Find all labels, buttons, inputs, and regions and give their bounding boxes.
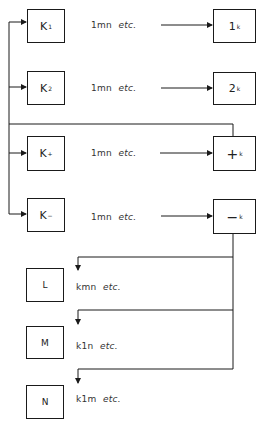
label-etc: etc. <box>118 212 136 222</box>
node-k1-main: K <box>40 20 47 33</box>
node-kminus-sub: − <box>48 212 53 219</box>
label-text: 1mn <box>91 212 112 222</box>
label-text: kmn <box>76 282 97 292</box>
node-minusk-sub: k <box>239 213 242 220</box>
node-1k: 1k <box>213 9 256 43</box>
label-etc: etc. <box>103 282 121 292</box>
node-minusk: −k <box>213 199 256 234</box>
node-k2-main: K <box>40 82 47 95</box>
node-n: N <box>26 385 64 419</box>
node-k2: K2 <box>27 71 65 105</box>
node-kplus-sub: + <box>48 150 53 157</box>
label-etc: etc. <box>118 83 136 93</box>
node-1k-sub: k <box>237 23 240 30</box>
node-l-main: L <box>42 280 47 290</box>
node-m-main: M <box>41 338 49 348</box>
node-kplus: K+ <box>27 136 65 171</box>
label-etc: etc. <box>118 148 136 158</box>
node-k1-sub: 1 <box>48 23 52 30</box>
node-m: M <box>26 326 64 359</box>
node-k1-label: 1mn etc. <box>91 20 137 30</box>
node-minusk-main: − <box>226 209 238 225</box>
node-2k-sub: k <box>237 85 240 92</box>
label-etc: etc. <box>118 20 136 30</box>
node-k2-label: 1mn etc. <box>91 83 137 93</box>
node-kminus: K− <box>27 198 65 232</box>
node-2k-main: 2 <box>229 82 236 95</box>
node-1k-main: 1 <box>229 20 236 33</box>
node-l-label: kmn etc. <box>76 282 121 292</box>
node-kplus-main: K <box>39 147 46 160</box>
label-etc: etc. <box>100 341 118 351</box>
node-kplus-label: 1mn etc. <box>91 148 137 158</box>
node-m-label: k1n etc. <box>76 341 118 351</box>
label-text: k1n <box>76 341 94 351</box>
label-etc: etc. <box>103 394 121 404</box>
label-text: k1m <box>76 394 97 404</box>
label-text: 1mn <box>91 20 112 30</box>
node-n-main: N <box>42 397 49 407</box>
node-2k: 2k <box>213 72 256 105</box>
label-text: 1mn <box>91 148 112 158</box>
node-kminus-main: K <box>39 209 46 222</box>
node-kminus-label: 1mn etc. <box>91 212 137 222</box>
node-k1: K1 <box>27 9 65 43</box>
node-k2-sub: 2 <box>48 85 52 92</box>
node-n-label: k1m etc. <box>76 394 121 404</box>
label-text: 1mn <box>91 83 112 93</box>
node-l: L <box>26 268 64 302</box>
node-plusk-main: + <box>226 146 238 162</box>
node-plusk-sub: k <box>239 150 242 157</box>
node-plusk: +k <box>213 136 256 171</box>
